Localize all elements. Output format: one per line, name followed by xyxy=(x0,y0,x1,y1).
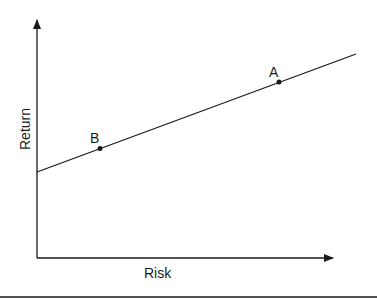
point-a-label: A xyxy=(269,64,279,80)
risk-return-diagram: B A Risk Return xyxy=(0,0,377,299)
point-a xyxy=(277,80,282,85)
x-axis-label: Risk xyxy=(144,265,172,281)
risk-return-line xyxy=(37,54,356,172)
point-b xyxy=(98,146,103,151)
y-axis-label: Return xyxy=(17,108,33,150)
point-b-label: B xyxy=(90,130,99,146)
